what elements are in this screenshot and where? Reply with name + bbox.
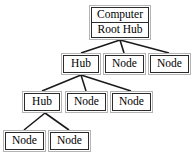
tree-node-node-l3-a[interactable]: Node <box>65 91 108 113</box>
tree-node-label: Root Hub <box>92 22 148 37</box>
tree-node-frame: Node <box>67 93 106 111</box>
tree-node-frame: Node <box>112 93 151 111</box>
tree-edge <box>120 40 124 53</box>
tree-node-label: Node <box>68 94 105 110</box>
tree-node-node-l3-b[interactable]: Node <box>110 91 153 113</box>
tree-node-label: Hub <box>25 94 59 110</box>
tree-node-label: Hub <box>64 56 98 72</box>
tree-node-label: Node <box>6 133 43 149</box>
tree-node-node-l2-a[interactable]: Node <box>103 53 146 75</box>
tree-edge <box>45 113 69 130</box>
tree-node-label: Node <box>106 56 143 72</box>
tree-edge <box>120 40 169 53</box>
tree-node-frame: Hub <box>63 55 99 73</box>
tree-node-root[interactable]: ComputerRoot Hub <box>89 5 151 40</box>
tree-node-frame: Node <box>105 55 144 73</box>
tree-edge <box>81 40 120 53</box>
tree-edge <box>42 75 81 91</box>
tree-node-label: Node <box>51 133 88 149</box>
tree-node-node-l4-b[interactable]: Node <box>48 130 91 152</box>
tree-node-label: Computer <box>92 8 148 22</box>
tree-edge <box>81 75 131 91</box>
tree-node-frame: ComputerRoot Hub <box>91 7 149 38</box>
tree-node-hub-l3[interactable]: Hub <box>22 91 62 113</box>
tree-node-label: Node <box>151 56 188 72</box>
usb-device-tree-diagram: ComputerRoot HubHubNodeNodeHubNodeNodeNo… <box>0 0 192 156</box>
tree-node-frame: Node <box>150 55 189 73</box>
tree-node-frame: Node <box>5 132 44 150</box>
tree-edge <box>24 113 45 130</box>
tree-node-node-l4-a[interactable]: Node <box>3 130 46 152</box>
tree-node-node-l2-b[interactable]: Node <box>148 53 191 75</box>
tree-node-frame: Hub <box>24 93 60 111</box>
tree-node-label: Node <box>113 94 150 110</box>
tree-edge <box>81 75 86 91</box>
tree-node-frame: Node <box>50 132 89 150</box>
tree-node-hub-l2[interactable]: Hub <box>61 53 101 75</box>
